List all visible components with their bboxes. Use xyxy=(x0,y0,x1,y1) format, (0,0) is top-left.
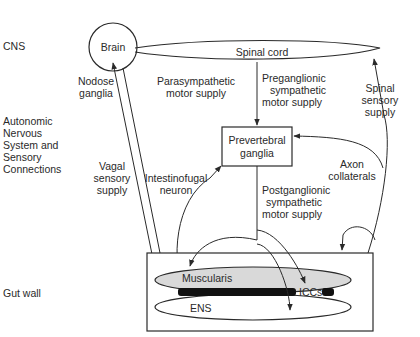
svg-text:Connections: Connections xyxy=(3,163,61,175)
svg-text:Brain: Brain xyxy=(101,41,126,53)
svg-text:Spinal: Spinal xyxy=(365,82,394,94)
svg-text:Sensory: Sensory xyxy=(3,151,42,163)
svg-text:Postganglionic: Postganglionic xyxy=(262,184,330,196)
svg-text:motor supply: motor supply xyxy=(262,96,323,108)
svg-text:ICCs: ICCs xyxy=(299,286,322,298)
svg-text:ENS: ENS xyxy=(190,302,212,314)
svg-text:sensory: sensory xyxy=(94,172,132,184)
row-label-autonomic: Autonomic Nervous System and Sensory Con… xyxy=(3,115,61,175)
svg-text:Nodose: Nodose xyxy=(78,75,114,87)
svg-text:collaterals: collaterals xyxy=(328,170,375,182)
svg-text:Gut wall: Gut wall xyxy=(3,287,41,299)
svg-text:ganglia: ganglia xyxy=(240,147,274,159)
row-label-gut-wall: Gut wall xyxy=(3,287,41,299)
svg-text:Autonomic: Autonomic xyxy=(3,115,53,127)
gut-innervation-diagram: CNS Autonomic Nervous System and Sensory… xyxy=(0,0,420,337)
ens-label: ENS xyxy=(190,302,212,314)
svg-text:motor supply: motor supply xyxy=(166,87,227,99)
svg-text:Parasympathetic: Parasympathetic xyxy=(157,75,235,87)
svg-text:Prevertebral: Prevertebral xyxy=(228,134,285,146)
prevertebral-ganglia-node: Prevertebral ganglia xyxy=(222,127,292,166)
svg-text:motor supply: motor supply xyxy=(262,208,323,220)
svg-text:Intestinofugal: Intestinofugal xyxy=(145,172,207,184)
svg-text:CNS: CNS xyxy=(3,40,25,52)
svg-text:Muscularis: Muscularis xyxy=(182,272,232,284)
postganglionic-pathway: Postganglionic sympathetic motor supply xyxy=(262,184,330,220)
svg-text:System and: System and xyxy=(3,139,59,151)
svg-text:Nervous: Nervous xyxy=(3,127,42,139)
svg-text:Spinal cord: Spinal cord xyxy=(236,46,289,58)
svg-text:sympathetic: sympathetic xyxy=(270,84,326,96)
preganglionic-pathway: Preganglionic sympathetic motor supply xyxy=(257,62,326,125)
svg-text:Vagal: Vagal xyxy=(99,160,125,172)
svg-text:ganglia: ganglia xyxy=(79,87,113,99)
svg-text:sympathetic: sympathetic xyxy=(266,196,322,208)
spinal-sensory-pathway: Spinal sensory supply xyxy=(362,59,400,253)
svg-text:Axon: Axon xyxy=(340,158,364,170)
svg-text:supply: supply xyxy=(365,106,396,118)
svg-text:neuron: neuron xyxy=(160,184,193,196)
svg-text:supply: supply xyxy=(97,184,128,196)
svg-text:Preganglionic: Preganglionic xyxy=(262,72,326,84)
parasympathetic-label: Parasympathetic motor supply xyxy=(157,75,235,99)
svg-text:sensory: sensory xyxy=(362,94,400,106)
row-label-cns: CNS xyxy=(3,40,25,52)
spinal-cord-node: Spinal cord xyxy=(135,41,380,60)
nodose-ganglia-label: Nodose ganglia xyxy=(78,75,114,99)
